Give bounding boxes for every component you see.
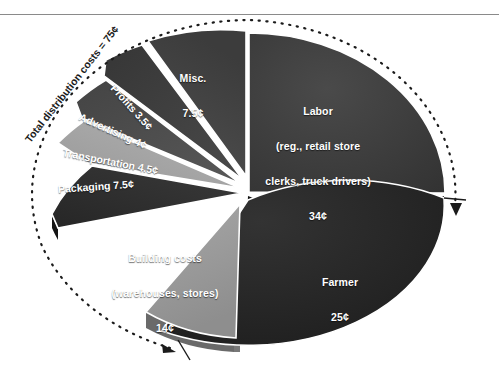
pie-slices — [52, 30, 445, 346]
arc-tick-end — [444, 198, 466, 200]
arc-arrowhead-start — [162, 344, 176, 353]
pie-slice-building-costs[interactable] — [146, 204, 240, 338]
pie-slice-labor[interactable] — [249, 33, 445, 193]
pie-slice-packaging[interactable] — [52, 166, 242, 228]
arc-arrowhead-end — [450, 203, 462, 216]
pie-chart-figure: Labor (reg., retail store clerks, truck … — [0, 0, 499, 378]
pie-chart-graphic — [0, 0, 499, 378]
